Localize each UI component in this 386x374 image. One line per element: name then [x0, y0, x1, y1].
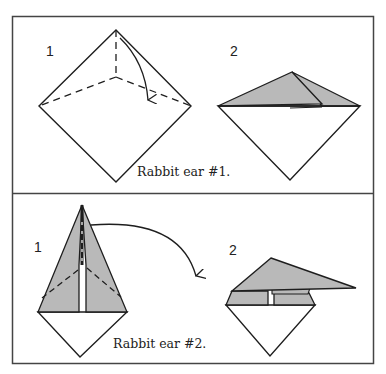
panel1-step1-diamond — [39, 30, 191, 182]
panel2-step1-kite — [38, 205, 127, 357]
diagram-canvas — [0, 0, 386, 374]
step-number: 1 — [34, 240, 42, 254]
panel2-step2-shape — [226, 258, 356, 356]
panel1-step2-shape — [218, 72, 360, 180]
panel-caption: Rabbit ear #2. — [113, 338, 206, 351]
step-number: 1 — [46, 44, 54, 58]
step-number: 2 — [230, 44, 238, 58]
step-number: 2 — [229, 243, 237, 257]
origami-diagram: 1 2 1 2 Rabbit ear #1. Rabbit ear #2. — [0, 0, 386, 374]
panel-caption: Rabbit ear #1. — [137, 166, 230, 179]
